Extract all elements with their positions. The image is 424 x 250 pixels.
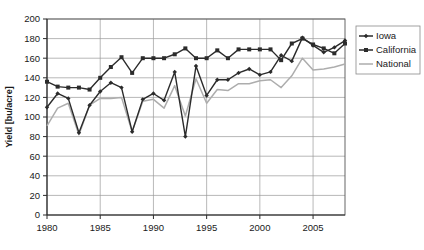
x-axis-tick-label: 1990 bbox=[143, 222, 164, 233]
y-axis-tick-label: 180 bbox=[24, 33, 40, 44]
legend-label: California bbox=[376, 44, 417, 55]
y-axis-tick-label: 40 bbox=[29, 170, 40, 181]
y-axis-tick-label: 100 bbox=[24, 111, 40, 122]
y-axis-tick-label: 20 bbox=[29, 190, 40, 201]
x-axis-tick-label: 2005 bbox=[303, 222, 324, 233]
data-point-marker bbox=[279, 58, 283, 62]
y-axis-tick-label: 60 bbox=[29, 151, 40, 162]
data-point-marker bbox=[311, 42, 315, 46]
data-point-marker bbox=[130, 71, 134, 75]
data-point-marker bbox=[205, 56, 209, 60]
data-point-marker bbox=[56, 85, 60, 89]
data-point-marker bbox=[332, 51, 336, 55]
x-axis-tick-label: 1995 bbox=[196, 222, 217, 233]
data-point-marker bbox=[77, 86, 81, 90]
data-point-marker bbox=[98, 76, 102, 80]
chart-page: 0204060801001201401601802001980198519901… bbox=[0, 0, 424, 250]
data-point-marker bbox=[237, 47, 241, 51]
data-point-marker bbox=[290, 42, 294, 46]
data-point-marker bbox=[151, 56, 155, 60]
data-point-marker bbox=[66, 86, 70, 90]
data-point-marker bbox=[364, 48, 368, 52]
data-point-marker bbox=[269, 47, 273, 51]
data-point-marker bbox=[343, 42, 347, 46]
y-axis-tick-label: 200 bbox=[24, 13, 40, 24]
data-point-marker bbox=[173, 52, 177, 56]
data-point-marker bbox=[322, 46, 326, 50]
data-point-marker bbox=[45, 80, 49, 84]
y-axis-tick-label: 160 bbox=[24, 53, 40, 64]
data-point-marker bbox=[215, 48, 219, 52]
yield-line-chart: 0204060801001201401601802001980198519901… bbox=[0, 0, 424, 250]
data-point-marker bbox=[226, 56, 230, 60]
x-axis-tick-label: 2000 bbox=[249, 222, 270, 233]
data-point-marker bbox=[183, 46, 187, 50]
data-point-marker bbox=[109, 65, 113, 69]
data-point-marker bbox=[88, 88, 92, 92]
data-point-marker bbox=[194, 56, 198, 60]
data-point-marker bbox=[258, 47, 262, 51]
data-point-marker bbox=[141, 56, 145, 60]
legend-label: Iowa bbox=[376, 30, 397, 41]
y-axis-tick-label: 140 bbox=[24, 72, 40, 83]
y-axis-tick-label: 120 bbox=[24, 92, 40, 103]
legend-label: National bbox=[376, 58, 411, 69]
data-point-marker bbox=[247, 47, 251, 51]
x-axis-tick-label: 1985 bbox=[90, 222, 111, 233]
data-point-marker bbox=[300, 37, 304, 41]
x-axis-tick-label: 1980 bbox=[36, 222, 57, 233]
y-axis-tick-label: 0 bbox=[35, 209, 40, 220]
data-point-marker bbox=[120, 55, 124, 59]
y-axis-tick-label: 80 bbox=[29, 131, 40, 142]
data-point-marker bbox=[162, 56, 166, 60]
y-axis-title: Yield [bu/acre] bbox=[4, 86, 14, 148]
